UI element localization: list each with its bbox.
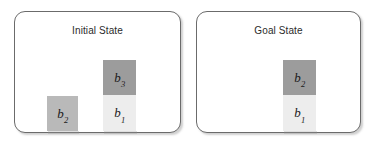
block-shadow <box>284 131 317 134</box>
block-initial-b3[interactable]: b3 <box>103 60 136 95</box>
blocks-world-figure: Initial State b2 b3 b1 Goal State b2 b1 <box>0 0 374 143</box>
initial-state-panel: Initial State <box>14 11 181 133</box>
block-label: b1 <box>294 106 305 119</box>
block-goal-b1[interactable]: b1 <box>283 95 316 131</box>
block-label: b1 <box>114 106 125 119</box>
block-label: b3 <box>114 71 125 84</box>
block-shadow <box>104 131 137 134</box>
goal-state-panel: Goal State <box>196 11 361 133</box>
initial-state-title: Initial State <box>15 25 180 37</box>
block-shadow <box>48 131 79 134</box>
block-initial-b2[interactable]: b2 <box>47 96 78 131</box>
block-label: b2 <box>57 107 68 120</box>
block-label: b2 <box>294 71 305 84</box>
goal-state-title: Goal State <box>197 25 360 37</box>
block-goal-b2[interactable]: b2 <box>283 60 316 95</box>
block-initial-b1[interactable]: b1 <box>103 95 136 131</box>
